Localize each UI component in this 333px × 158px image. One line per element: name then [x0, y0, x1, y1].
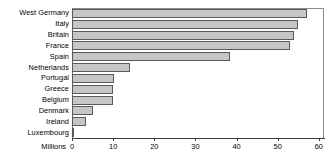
bar — [72, 41, 290, 50]
x-axis-tick-label: 20 — [150, 142, 158, 151]
category-label: Denmark — [0, 106, 69, 115]
bar — [72, 31, 294, 40]
plot-area — [72, 8, 325, 138]
category-label: Italy — [0, 19, 69, 28]
category-label: Greece — [0, 84, 69, 93]
x-axis-tick — [237, 138, 238, 141]
x-axis-tick — [113, 138, 114, 141]
bar — [72, 96, 113, 105]
category-axis-labels: West GermanyItalyBritainFranceSpainNethe… — [0, 8, 69, 138]
category-label: Netherlands — [0, 63, 69, 72]
category-label: Portugal — [0, 73, 69, 82]
x-axis-title: Millions — [0, 142, 66, 151]
bar — [72, 117, 86, 126]
category-label: Belgium — [0, 95, 69, 104]
x-axis-tick — [195, 138, 196, 141]
x-axis-tick-label: 0 — [70, 142, 74, 151]
category-label: Ireland — [0, 117, 69, 126]
bar-chart: West GermanyItalyBritainFranceSpainNethe… — [0, 0, 333, 158]
x-axis-tick — [278, 138, 279, 141]
x-axis-tick — [72, 138, 73, 141]
x-axis-tick-label: 50 — [274, 142, 282, 151]
x-axis-tick — [154, 138, 155, 141]
bar — [72, 63, 130, 72]
bar — [72, 74, 114, 83]
x-axis-tick-label: 40 — [232, 142, 240, 151]
bar — [72, 52, 230, 61]
category-label: France — [0, 41, 69, 50]
category-label: West Germany — [0, 8, 69, 17]
bar — [72, 9, 307, 18]
x-axis-tick-label: 10 — [109, 142, 117, 151]
bar — [72, 128, 74, 137]
bar — [72, 20, 298, 29]
category-label: Britain — [0, 30, 69, 39]
bar — [72, 85, 113, 94]
x-axis-line — [72, 138, 325, 139]
x-axis-tick — [319, 138, 320, 141]
bar — [72, 106, 93, 115]
category-label: Spain — [0, 52, 69, 61]
x-axis-tick-label: 60 — [315, 142, 323, 151]
category-label: Luxembourg — [0, 128, 69, 137]
x-axis-tick-label: 30 — [191, 142, 199, 151]
